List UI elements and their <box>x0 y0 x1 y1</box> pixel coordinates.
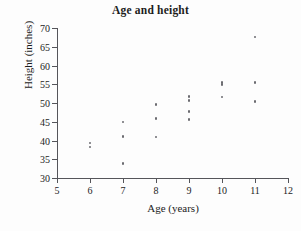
x-axis-tick <box>255 178 256 183</box>
y-axis-tick <box>52 141 57 142</box>
y-axis-tick-label: 65 <box>40 41 50 52</box>
y-axis-tick <box>52 66 57 67</box>
y-axis-tick-label: 55 <box>40 79 50 90</box>
x-axis-tick-label: 6 <box>88 185 93 196</box>
data-point <box>188 95 191 98</box>
chart-title: Age and height <box>0 4 301 16</box>
data-point <box>155 136 158 139</box>
x-axis-tick <box>222 178 223 183</box>
y-axis-tick-label: 50 <box>40 98 50 109</box>
y-axis-tick <box>52 47 57 48</box>
plot-area: 303540455055606570 56789101112 <box>57 28 288 178</box>
x-axis-tick-label: 5 <box>55 185 60 196</box>
data-point <box>122 162 125 165</box>
x-axis-tick-label: 9 <box>187 185 192 196</box>
data-point <box>188 99 191 102</box>
x-axis-tick-label: 8 <box>154 185 159 196</box>
y-axis-tick-label: 60 <box>40 60 50 71</box>
y-axis-tick-label: 35 <box>40 154 50 165</box>
x-axis-tick-label: 12 <box>283 185 293 196</box>
data-point <box>188 118 191 121</box>
x-axis-tick <box>189 178 190 183</box>
x-axis-tick <box>90 178 91 183</box>
data-point <box>155 103 158 106</box>
y-axis-tick <box>52 103 57 104</box>
y-axis-tick <box>52 28 57 29</box>
data-point <box>122 135 125 138</box>
y-axis-tick-label: 70 <box>40 23 50 34</box>
y-axis-title: Height (inches) <box>22 0 34 130</box>
data-point <box>254 100 257 103</box>
x-axis-tick <box>288 178 289 183</box>
data-point <box>89 142 92 145</box>
y-axis-tick <box>52 84 57 85</box>
data-point <box>254 36 257 39</box>
x-axis-tick <box>123 178 124 183</box>
scatter-chart: Age and height 303540455055606570 567891… <box>0 0 301 231</box>
x-axis-tick-label: 10 <box>217 185 227 196</box>
data-point <box>221 96 224 99</box>
x-axis-tick <box>57 178 58 183</box>
data-point <box>221 83 224 86</box>
data-point <box>89 146 92 149</box>
x-axis-tick <box>156 178 157 183</box>
y-axis-tick <box>52 159 57 160</box>
x-axis-tick-label: 7 <box>121 185 126 196</box>
data-point <box>188 110 191 113</box>
data-point <box>122 121 125 124</box>
x-axis-tick-label: 11 <box>250 185 260 196</box>
y-axis-tick-label: 30 <box>40 173 50 184</box>
y-axis-tick-label: 45 <box>40 116 50 127</box>
y-axis-tick-label: 40 <box>40 135 50 146</box>
x-axis-title: Age (years) <box>57 202 289 214</box>
data-point <box>221 81 224 84</box>
data-point <box>155 117 158 120</box>
data-point <box>254 81 257 84</box>
y-axis-tick <box>52 122 57 123</box>
